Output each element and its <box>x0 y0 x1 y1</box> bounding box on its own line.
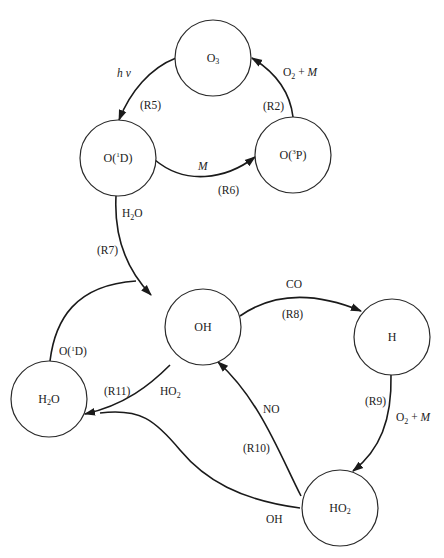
label-r7-reaction: (R7) <box>97 244 118 257</box>
edge-r9-h-to-ho2 <box>353 375 391 471</box>
label-r9-reaction: (R9) <box>365 395 386 408</box>
label-r8-reagent: CO <box>286 278 302 290</box>
svg-text:OH: OH <box>194 320 212 334</box>
label-r11-reagent: HO2 <box>160 385 181 400</box>
label-r10-reaction: (R10) <box>243 442 270 455</box>
label-r10-reagent: NO <box>263 403 280 415</box>
node-o3p: O(3P) <box>255 117 331 193</box>
edge-r11b-ho2-to-h2o <box>100 412 300 508</box>
label-r7-reagent: H2O <box>122 207 143 222</box>
label-r5-reaction: (R5) <box>140 99 161 112</box>
node-o1d: O(1D) <box>80 120 156 196</box>
label-r6-reaction: (R6) <box>218 184 239 197</box>
label-r2-reagent: O2 + M <box>283 66 319 81</box>
node-ho2: HO2 <box>302 470 378 546</box>
node-h2o: H2O <box>11 361 87 437</box>
label-r11-reaction: (R11) <box>104 385 131 398</box>
label-r11b-reagent: OH <box>266 513 283 525</box>
reaction-cycle-diagram: O3 O(1D) O(3P) OH H H2O HO2 h ν (R5) O2 … <box>0 0 444 558</box>
node-o3: O3 <box>175 20 251 96</box>
node-oh: OH <box>165 289 241 365</box>
label-r2-reaction: (R2) <box>263 100 284 113</box>
label-h2o-o1d-reagent: O(1D) <box>59 345 87 358</box>
edge-r10-ho2-to-oh <box>218 362 301 496</box>
node-h: H <box>354 299 430 375</box>
label-r6-reagent: M <box>197 160 209 172</box>
label-r8-reaction: (R8) <box>282 308 303 321</box>
label-r5-reagent: h ν <box>117 67 132 79</box>
label-r9-reagent: O2 + M <box>396 411 432 426</box>
svg-text:H: H <box>388 330 397 344</box>
